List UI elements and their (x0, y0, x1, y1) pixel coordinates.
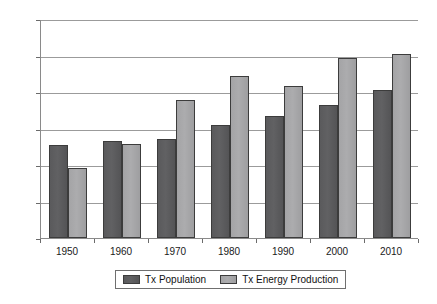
legend-item-tx-population: Tx Population (123, 274, 206, 285)
x-axis-tick-mark (94, 239, 95, 243)
x-axis-tick-mark (418, 239, 419, 243)
y-axis-tick-mark (36, 130, 40, 131)
chart-legend: Tx Population Tx Energy Production (115, 270, 346, 289)
y-axis-tick-mark (36, 57, 40, 58)
legend-label-series-0: Tx Population (145, 274, 206, 285)
y-axis: 0%2%4%6%8%10%12% (0, 0, 437, 304)
x-axis-tick-mark (310, 239, 311, 243)
x-axis-tick-label: 2010 (366, 246, 416, 258)
x-axis-tick-label: 1970 (150, 246, 200, 258)
x-axis-tick-mark (202, 239, 203, 243)
x-axis-tick-mark (256, 239, 257, 243)
legend-item-tx-energy-production: Tx Energy Production (220, 274, 338, 285)
bar-chart: 0%2%4%6%8%10%12% 19501960197019801990200… (0, 0, 437, 304)
x-axis-tick-label: 2000 (312, 246, 362, 258)
x-axis-tick-mark (148, 239, 149, 243)
y-axis-tick-mark (36, 203, 40, 204)
legend-swatch-icon-series-1 (220, 275, 237, 284)
y-axis-tick-mark (36, 93, 40, 94)
y-axis-tick-mark (36, 166, 40, 167)
x-axis-tick-label: 1980 (204, 246, 254, 258)
x-axis-tick-mark (40, 239, 41, 243)
legend-swatch-icon-series-0 (123, 275, 140, 284)
legend-label-series-1: Tx Energy Production (242, 274, 338, 285)
x-axis-tick-label: 1950 (42, 246, 92, 258)
x-axis-tick-label: 1960 (96, 246, 146, 258)
x-axis-tick-mark (364, 239, 365, 243)
x-axis-tick-label: 1990 (258, 246, 308, 258)
y-axis-tick-mark (36, 20, 40, 21)
